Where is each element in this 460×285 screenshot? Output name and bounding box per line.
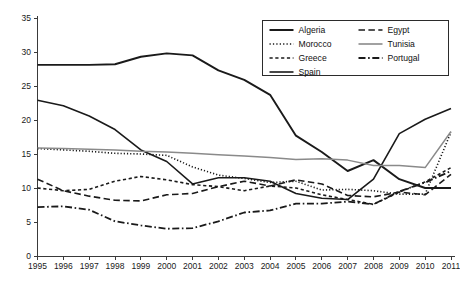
series-container <box>38 53 452 228</box>
y-tick-label: 25 <box>22 81 32 91</box>
x-tick-label: 2010 <box>416 261 435 271</box>
legend-background <box>263 21 449 76</box>
x-tick-label: 1996 <box>54 261 73 271</box>
y-tick-label: 15 <box>22 149 32 159</box>
x-tick-label: 2004 <box>261 261 280 271</box>
y-tick-label: 35 <box>22 13 32 23</box>
x-tick-label: 2000 <box>157 261 176 271</box>
y-tick-label: 10 <box>22 183 32 193</box>
x-tick-label: 2007 <box>338 261 357 271</box>
y-tick-label: 0 <box>26 251 31 261</box>
x-tick-label: 1998 <box>106 261 125 271</box>
legend-item-algeria-label: Algeria <box>299 25 326 35</box>
legend-item-egypt-label: Egypt <box>388 25 411 35</box>
legend-item-greece-label: Greece <box>299 53 327 63</box>
y-tick-label: 20 <box>22 115 32 125</box>
x-tick-label: 2005 <box>286 261 305 271</box>
series-line-portugal <box>38 171 452 229</box>
x-tick-label: 1999 <box>131 261 150 271</box>
x-tick-label: 2003 <box>235 261 254 271</box>
legend-item-spain-label: Spain <box>299 67 321 77</box>
x-tick-label: 2006 <box>312 261 331 271</box>
series-line-morocco <box>38 132 452 194</box>
legend-item-tunisia-label: Tunisia <box>388 39 416 49</box>
series-line-tunisia <box>38 132 452 168</box>
x-tick-label: 1995 <box>28 261 47 271</box>
x-tick-label: 2002 <box>209 261 228 271</box>
legend-item-portugal-label: Portugal <box>388 53 420 63</box>
line-chart: 05101520253035 1995199619971998199920002… <box>0 0 460 285</box>
x-tick-label: 2011 <box>442 261 460 271</box>
x-tick-label: 2001 <box>183 261 202 271</box>
x-axis: 1995199619971998199920002001200220032004… <box>28 256 460 271</box>
y-axis: 05101520253035 <box>22 13 38 261</box>
x-tick-label: 2008 <box>364 261 383 271</box>
y-tick-label: 5 <box>26 217 31 227</box>
x-tick-label: 1997 <box>80 261 99 271</box>
y-tick-label: 30 <box>22 47 32 57</box>
chart-canvas: 05101520253035 1995199619971998199920002… <box>0 0 460 285</box>
x-tick-label: 2009 <box>390 261 409 271</box>
legend-item-morocco-label: Morocco <box>299 39 332 49</box>
series-line-greece <box>38 168 452 205</box>
chart-legend: AlgeriaEgyptMoroccoTunisiaGreecePortugal… <box>263 21 449 78</box>
